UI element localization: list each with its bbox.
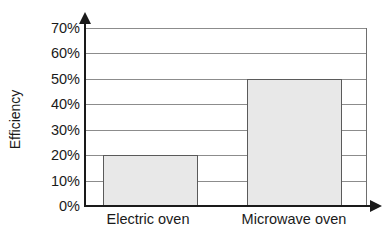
plot-area [84, 28, 367, 206]
x-tick-label-microwave-oven: Microwave oven [199, 211, 389, 228]
y-tick-label: 60% [34, 46, 80, 61]
bar-chart: Efficiency 70% 60% 50% 40% 30% 20% 10% 0… [0, 0, 391, 239]
arrow-up-icon [79, 12, 91, 24]
y-tick-label: 10% [34, 174, 80, 189]
y-tick-label: 70% [34, 21, 80, 36]
y-tick-label: 50% [34, 72, 80, 87]
x-axis-line [84, 205, 373, 207]
gridline [84, 53, 366, 54]
y-axis-title: Efficiency [0, 0, 30, 239]
bar-electric-oven [103, 155, 198, 206]
bar-microwave-oven [247, 79, 342, 206]
y-axis-line [84, 22, 86, 207]
y-axis-tick-labels: 70% 60% 50% 40% 30% 20% 10% 0% [32, 0, 80, 239]
gridline [84, 28, 366, 29]
y-tick-label: 40% [34, 97, 80, 112]
y-tick-label: 30% [34, 123, 80, 138]
y-tick-label: 20% [34, 148, 80, 163]
